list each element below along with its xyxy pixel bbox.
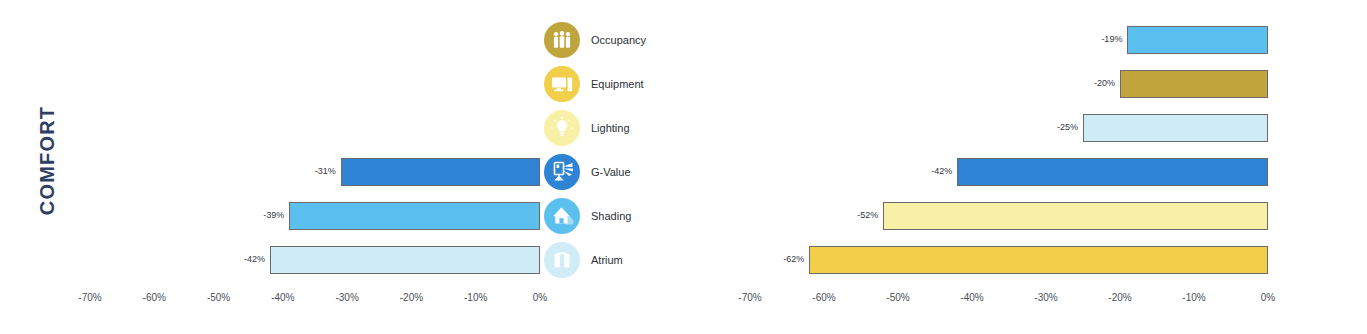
axis-tick-label: -10% [464, 292, 487, 303]
shading-icon [544, 198, 580, 234]
axis-tick-label: -70% [78, 292, 101, 303]
legend-label: Occupancy [591, 34, 646, 46]
axis-tick-label: -60% [143, 292, 166, 303]
bar-row [90, 106, 540, 150]
axis-tick-label: -50% [207, 292, 230, 303]
bar-row [90, 62, 540, 106]
bar-row [90, 18, 540, 62]
axis-tick-label: -30% [1034, 292, 1057, 303]
bar-value-label: -62% [783, 254, 809, 264]
bar-row: -19% [750, 18, 1268, 62]
bar-row: -20% [750, 62, 1268, 106]
bar-lighting[interactable] [883, 202, 1268, 230]
axis-tick-label: -10% [1182, 292, 1205, 303]
bar-g-value[interactable] [341, 158, 540, 186]
bar-atrium[interactable] [1083, 114, 1268, 142]
legend-item-equipment[interactable]: Equipment [542, 62, 644, 106]
axis-tick-label: 0% [533, 292, 547, 303]
legend-item-lighting[interactable]: Lighting [542, 106, 630, 150]
legend-label: G-Value [591, 166, 631, 178]
bar-shading[interactable] [1127, 26, 1268, 54]
lighting-icon [544, 110, 580, 146]
plot-area-right: -19%-20%-25%-42%-52%-62% [750, 18, 1268, 282]
legend-item-shading[interactable]: Shading [542, 194, 631, 238]
bar-row: -52% [750, 194, 1268, 238]
axis-tick-label: -40% [960, 292, 983, 303]
bar-g-value[interactable] [957, 158, 1268, 186]
legend-label: Lighting [591, 122, 630, 134]
chart-panel-comfort: -31%-39%-42% OccupancyEquipmentLightingG… [0, 0, 690, 334]
bar-equipment[interactable] [809, 246, 1268, 274]
bar-row: -25% [750, 106, 1268, 150]
axis-tick-label: -50% [886, 292, 909, 303]
plot-area-left: -31%-39%-42% [90, 18, 540, 282]
axis-tick-label: -20% [400, 292, 423, 303]
bar-value-label: -19% [1101, 34, 1127, 44]
axis-tick-label: -20% [1108, 292, 1131, 303]
bar-value-label: -39% [263, 210, 289, 220]
bar-occupancy[interactable] [1120, 70, 1268, 98]
bar-row: -42% [750, 150, 1268, 194]
x-axis-left: -70%-60%-50%-40%-30%-20%-10%0% [90, 292, 540, 312]
bar-value-label: -42% [931, 166, 957, 176]
legend-label: Shading [591, 210, 631, 222]
legend-item-atrium[interactable]: Atrium [542, 238, 623, 282]
atrium-icon [544, 242, 580, 278]
bar-row: -31% [90, 150, 540, 194]
axis-tick-label: -40% [271, 292, 294, 303]
bar-value-label: -52% [857, 210, 883, 220]
legend-item-occupancy[interactable]: Occupancy [542, 18, 646, 62]
bar-atrium[interactable] [270, 246, 540, 274]
bar-value-label: -31% [315, 166, 341, 176]
legend-label: Atrium [591, 254, 623, 266]
legend-left: OccupancyEquipmentLightingG-ValueShading… [542, 18, 692, 282]
legend-label: Equipment [591, 78, 644, 90]
bar-value-label: -20% [1094, 78, 1120, 88]
bar-value-label: -25% [1057, 122, 1083, 132]
bar-row: -62% [750, 238, 1268, 282]
occupancy-icon [544, 22, 580, 58]
chart-panel-energy: -19%-20%-25%-42%-52%-62% ShadingOccupanc… [690, 0, 1367, 334]
bar-row: -39% [90, 194, 540, 238]
axis-tick-label: -70% [738, 292, 761, 303]
bar-value-label: -42% [244, 254, 270, 264]
figure-root: COMFORT -31%-39%-42% OccupancyEquipmentL… [0, 0, 1367, 334]
axis-tick-label: 0% [1261, 292, 1275, 303]
axis-tick-label: -30% [335, 292, 358, 303]
bar-shading[interactable] [289, 202, 540, 230]
g-value-icon [544, 154, 580, 190]
legend-item-g-value[interactable]: G-Value [542, 150, 631, 194]
x-axis-right: -70%-60%-50%-40%-30%-20%-10%0% [750, 292, 1268, 312]
axis-tick-label: -60% [812, 292, 835, 303]
equipment-icon [544, 66, 580, 102]
bar-row: -42% [90, 238, 540, 282]
